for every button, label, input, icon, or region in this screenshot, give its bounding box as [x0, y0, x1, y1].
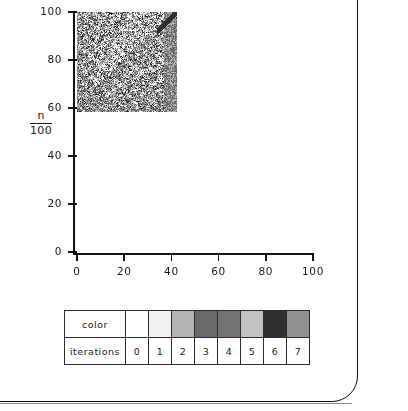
- y-tick-label: 80: [26, 53, 62, 65]
- legend-row-label-color: color: [65, 311, 126, 338]
- figure: n 100 020406080100020406080100 color ite…: [0, 0, 340, 403]
- y-axis-title: n 100: [24, 110, 58, 136]
- legend-color-swatch-1: [149, 311, 172, 338]
- y-axis-spine: [73, 11, 75, 254]
- legend-color-swatch-3: [195, 311, 218, 338]
- y-tick-mark: [68, 107, 77, 109]
- legend-iteration-value-6: 6: [264, 338, 287, 365]
- legend-color-swatch-2: [172, 311, 195, 338]
- x-tick-mark: [171, 253, 173, 261]
- legend-color-swatch-7: [287, 311, 310, 338]
- x-tick-label: 40: [151, 265, 191, 277]
- x-tick-label: 0: [57, 265, 97, 277]
- y-tick-mark: [68, 11, 77, 13]
- x-tick-mark: [265, 253, 267, 261]
- legend-color-swatch-0: [126, 311, 149, 338]
- legend-iteration-value-4: 4: [218, 338, 241, 365]
- y-axis-title-denominator: 100: [24, 125, 58, 137]
- x-axis-spine: [73, 253, 314, 255]
- x-tick-mark: [123, 253, 125, 261]
- legend-iterations-row: iterations 01234567: [65, 338, 310, 365]
- y-tick-label: 100: [26, 5, 62, 17]
- legend-color-row: color: [65, 311, 310, 338]
- y-tick-mark: [68, 155, 77, 157]
- y-tick-label: 40: [26, 149, 62, 161]
- y-tick-label: 60: [26, 101, 62, 113]
- legend-row-label-iterations: iterations: [65, 338, 126, 365]
- legend-iteration-value-1: 1: [149, 338, 172, 365]
- legend-color-swatch-4: [218, 311, 241, 338]
- legend-iteration-value-5: 5: [241, 338, 264, 365]
- x-tick-mark: [218, 253, 220, 261]
- y-tick-mark: [68, 59, 77, 61]
- legend-color-swatch-5: [241, 311, 264, 338]
- y-tick-label: 20: [26, 197, 62, 209]
- heatmap-canvas: [77, 12, 177, 112]
- page-bottom-rule: [0, 403, 352, 404]
- x-tick-label: 20: [104, 265, 144, 277]
- x-tick-label: 80: [246, 265, 286, 277]
- x-tick-label: 60: [199, 265, 239, 277]
- legend-table: color iterations 01234567: [64, 310, 310, 365]
- x-tick-label: 100: [293, 265, 333, 277]
- x-tick-mark: [76, 253, 78, 261]
- x-tick-mark: [312, 253, 314, 261]
- heatmap-plot-area: [77, 12, 313, 252]
- legend-iteration-value-7: 7: [287, 338, 310, 365]
- y-tick-label: 0: [26, 245, 62, 257]
- y-tick-mark: [68, 203, 77, 205]
- legend-iteration-value-0: 0: [126, 338, 149, 365]
- legend-color-swatch-6: [264, 311, 287, 338]
- legend-iteration-value-3: 3: [195, 338, 218, 365]
- legend-iteration-value-2: 2: [172, 338, 195, 365]
